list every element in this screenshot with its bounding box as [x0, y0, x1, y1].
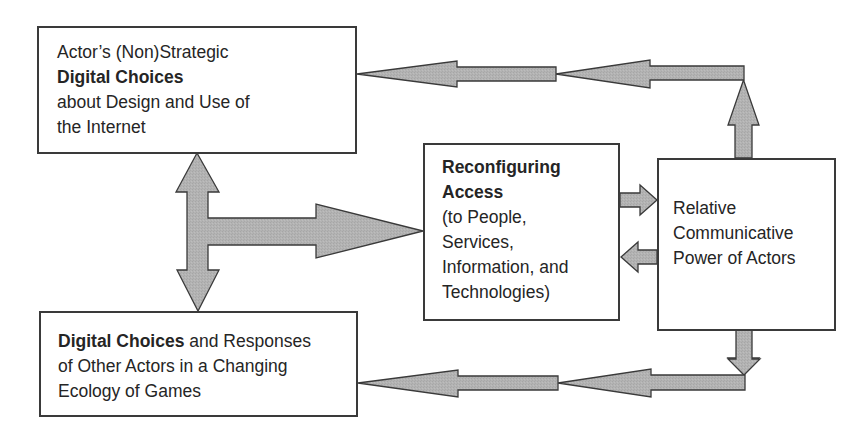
node-other-actors-label: Digital Choices and Responses of Other A… [58, 329, 311, 404]
text-line: Communicative [673, 221, 796, 246]
node-reconfiguring-access-label: Reconfiguring Access (to People, Service… [442, 155, 568, 305]
text-bold: Access [442, 182, 503, 202]
text-normal: (to People, [442, 207, 527, 227]
text-line: Reconfiguring [442, 155, 568, 180]
text-normal: Communicative [673, 223, 794, 243]
text-line: Access [442, 180, 568, 205]
text-normal: Services, [442, 232, 514, 252]
text-line: about Design and Use of [57, 90, 250, 115]
arrow-bottom-left-segment [358, 370, 558, 397]
arrow-bottom-right-segment [558, 369, 745, 397]
text-normal: Technologies) [442, 282, 550, 302]
text-normal: of Other Actors in a Changing [58, 356, 288, 376]
text-line: Information, and [442, 255, 568, 280]
text-normal: and Responses [184, 331, 310, 351]
text-normal: Ecology of Games [58, 381, 201, 401]
node-actor-choices-label: Actor’s (Non)Strategic Digital Choices a… [57, 40, 250, 140]
text-line: Relative [673, 196, 796, 221]
text-line: Technologies) [442, 280, 568, 305]
arrow-power-to-access [621, 242, 657, 272]
text-line: Digital Choices and Responses [58, 329, 311, 354]
arrow-power-up [728, 80, 759, 158]
text-normal: Relative [673, 198, 736, 218]
text-bold: Digital Choices [57, 67, 183, 87]
text-normal: Power of Actors [673, 248, 796, 268]
arrow-power-down-head [728, 330, 760, 375]
arrow-top-right-segment [556, 60, 744, 88]
text-line: Services, [442, 230, 568, 255]
text-line: Ecology of Games [58, 379, 311, 404]
text-normal: Actor’s (Non)Strategic [57, 42, 229, 62]
text-bold: Reconfiguring [442, 157, 561, 177]
text-line: Power of Actors [673, 246, 796, 271]
text-normal: Information, and [442, 257, 568, 277]
text-normal: about Design and Use of [57, 92, 250, 112]
arrow-t-junction [176, 153, 423, 311]
text-line: Actor’s (Non)Strategic [57, 40, 250, 65]
arrow-access-to-power [620, 185, 657, 215]
text-line: Digital Choices [57, 65, 250, 90]
arrow-top-left-segment [357, 61, 556, 87]
text-line: the Internet [57, 115, 250, 140]
text-line: of Other Actors in a Changing [58, 354, 311, 379]
text-line: (to People, [442, 205, 568, 230]
node-communicative-power-label: Relative Communicative Power of Actors [673, 196, 796, 271]
text-normal: the Internet [57, 117, 146, 137]
text-bold: Digital Choices [58, 331, 184, 351]
